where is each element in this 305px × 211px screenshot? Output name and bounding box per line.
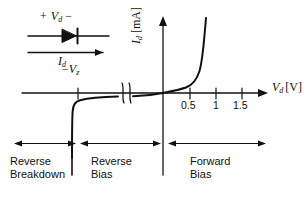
y-axis-unit: [mA] <box>129 7 143 33</box>
diode-voltage-plus: + <box>40 9 47 23</box>
region-reverse-bias-line1: Reverse <box>91 155 132 168</box>
span-arrow-reverse-breakdown <box>14 141 76 147</box>
y-axis-sub: d <box>135 36 144 40</box>
breakdown-minus: − <box>62 62 69 76</box>
span-arrow-forward-bias <box>168 141 266 147</box>
tick-label-0-5: 0.5 <box>181 100 196 111</box>
y-axis-symbol: I <box>129 40 143 44</box>
y-axis-label: Id[mA] <box>130 7 145 44</box>
curve-forward-bias <box>163 18 206 93</box>
x-axis-unit: [V] <box>285 80 302 94</box>
x-axis-label: Vd[V] <box>272 81 302 96</box>
breakdown-sub: z <box>76 68 79 77</box>
tick-label-1: 1 <box>213 100 219 111</box>
region-forward-bias-line1: Forward <box>190 155 230 168</box>
region-reverse-breakdown-line2: Breakdown <box>10 168 65 181</box>
y-axis <box>159 16 167 175</box>
region-reverse-bias-line2: Bias <box>91 168 132 181</box>
diode-symbol <box>28 29 109 44</box>
region-label-forward-bias: Forward Bias <box>190 155 230 182</box>
figure-container: +Vd− Id −Vz Id[mA] Vd[V] 0.5 1 1.5 Rever… <box>0 0 305 211</box>
diode-voltage-sub: d <box>58 15 62 24</box>
x-axis-sub: d <box>279 86 283 95</box>
region-reverse-breakdown-line1: Reverse <box>10 155 65 168</box>
curve-reverse-breakdown <box>72 97 118 158</box>
region-label-reverse-bias: Reverse Bias <box>91 155 132 182</box>
span-arrow-reverse-bias <box>80 141 161 147</box>
tick-label-1-5: 1.5 <box>233 100 248 111</box>
region-label-reverse-breakdown: Reverse Breakdown <box>10 155 65 182</box>
breakdown-voltage-label: −Vz <box>62 63 79 78</box>
diode-voltage-label: +Vd− <box>40 10 72 25</box>
diode-voltage-minus: − <box>65 9 72 23</box>
region-forward-bias-line2: Bias <box>190 168 230 181</box>
